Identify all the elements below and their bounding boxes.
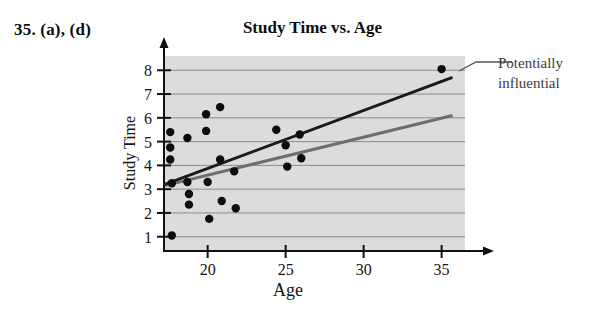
data-point [166, 128, 174, 136]
data-point [168, 231, 176, 239]
x-tick-label: 30 [356, 261, 372, 278]
data-point [216, 103, 224, 111]
y-axis-title: Study Time [121, 116, 139, 190]
y-tick-label: 5 [144, 134, 152, 151]
y-tick-label: 1 [144, 229, 152, 246]
data-point [272, 126, 280, 134]
data-point [216, 155, 224, 163]
y-tick-label: 2 [144, 205, 152, 222]
y-tick-label: 7 [144, 86, 152, 103]
data-point [185, 190, 193, 198]
data-point [297, 154, 305, 162]
data-point [183, 134, 191, 142]
data-point [183, 178, 191, 186]
x-axis-title: Age [273, 280, 303, 300]
data-point [202, 110, 210, 118]
data-point [205, 215, 213, 223]
data-point [202, 127, 210, 135]
data-point [283, 162, 291, 170]
scatter-plot: 12345678 20253035 Study Time Age Potenti… [0, 0, 603, 315]
data-point [295, 130, 303, 138]
annotation-label-line1: Potentially [498, 55, 563, 71]
data-point [203, 178, 211, 186]
x-tick-label: 20 [200, 261, 216, 278]
y-tick-label: 4 [144, 157, 152, 174]
x-tick-label: 25 [278, 261, 294, 278]
annotation-label-line2: influential [498, 75, 560, 91]
data-point [232, 204, 240, 212]
data-point [281, 141, 289, 149]
y-tick-label: 8 [144, 62, 152, 79]
data-point [437, 65, 445, 73]
x-tick-label: 35 [434, 261, 450, 278]
data-point [218, 197, 226, 205]
y-tick-label: 3 [144, 181, 152, 198]
data-point [230, 167, 238, 175]
data-point [166, 155, 174, 163]
data-point [168, 179, 176, 187]
data-point [185, 200, 193, 208]
data-point [166, 143, 174, 151]
figure-page: 35. (a), (d) Study Time vs. Age 12345678… [0, 0, 603, 315]
y-tick-label: 6 [144, 110, 152, 127]
